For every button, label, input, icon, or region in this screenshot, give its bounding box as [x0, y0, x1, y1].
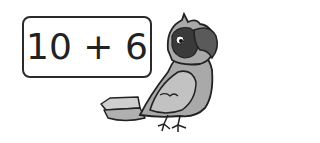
parrot-tail	[101, 97, 145, 121]
parrot-icon	[95, 12, 231, 143]
